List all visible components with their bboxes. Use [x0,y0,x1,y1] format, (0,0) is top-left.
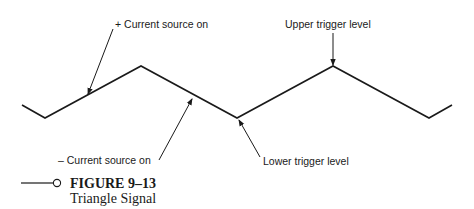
upper-trigger-label: Upper trigger level [285,18,371,30]
minus-current-arrow [159,99,192,160]
triangle-signal-figure: + Current source on Upper trigger level … [0,0,474,209]
figure-number: FIGURE 9–13 [70,176,156,191]
triangle-waveform [22,66,452,118]
figure-title: Triangle Signal [70,191,156,206]
plus-current-source-label: + Current source on [115,18,208,30]
plus-current-arrow [88,29,113,94]
lower-trigger-label: Lower trigger level [263,155,349,167]
minus-current-source-label: – Current source on [58,154,151,166]
caption-bullet-icon [53,179,60,186]
lower-trigger-arrow [239,120,260,157]
